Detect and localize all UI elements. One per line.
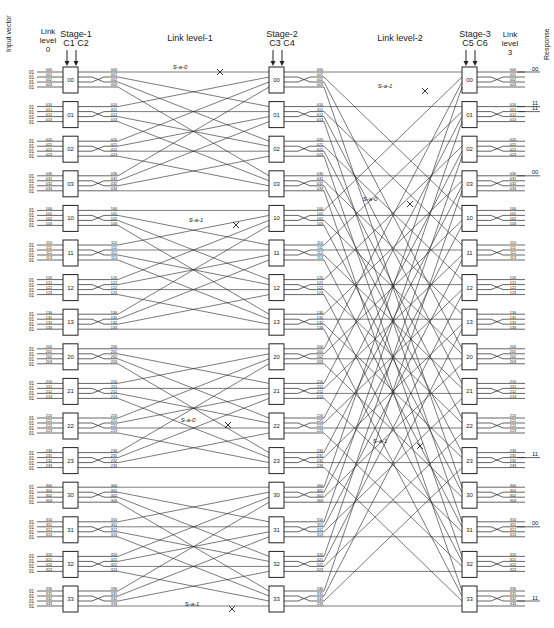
link-label: 010 <box>111 103 117 107</box>
link-label: 113 <box>111 256 117 260</box>
switch-3-22: 22220221222223 <box>462 413 517 439</box>
link-label: 123 <box>510 291 516 295</box>
link-label: 202 <box>317 355 323 359</box>
link-label: 213 <box>510 395 516 399</box>
link-label: 002 <box>317 78 323 82</box>
link-label: 233 <box>510 464 516 468</box>
response-value-4: 11 <box>532 451 539 457</box>
link-label: 300 <box>510 484 516 488</box>
switch-label: 02 <box>273 146 280 152</box>
switch-label: 03 <box>273 181 280 187</box>
link-label: 332 <box>510 597 516 601</box>
link-label: 220 <box>111 414 117 418</box>
switch-2-02: 02020021022023 <box>269 136 324 162</box>
stage-3-header: Stage-3 C5 C6 <box>452 30 498 48</box>
switch-3-20: 20200201202203 <box>462 344 517 370</box>
link-label: 000 <box>111 68 117 72</box>
link-level-1-header: Link level-1 <box>150 34 230 43</box>
link-label: 223 <box>510 429 516 433</box>
link-0-label: 120 <box>46 276 52 280</box>
switch-label: 12 <box>273 285 280 291</box>
switch-label: 23 <box>67 458 74 464</box>
link-0-label: 203 <box>46 360 52 364</box>
link-label: 002 <box>510 78 516 82</box>
switch-2-22: 22220221222223 <box>269 413 324 439</box>
link-label: 300 <box>111 484 117 488</box>
switch-label: 23 <box>273 458 280 464</box>
link-label: 012 <box>510 113 516 117</box>
link-label: 022 <box>111 148 117 152</box>
link-label: 130 <box>510 311 516 315</box>
link-label: 012 <box>111 113 117 117</box>
switch-label: 31 <box>67 527 74 533</box>
link-0-label: 232 <box>46 459 52 463</box>
input-bit: 01 <box>29 431 35 436</box>
link-label: 023 <box>111 153 117 157</box>
link-label: 203 <box>317 360 323 364</box>
switch-2-13: 13130131132133 <box>269 309 324 335</box>
switch-1-01: 0101010010010110110101201201013013 <box>29 102 118 128</box>
input-bit: 01 <box>29 604 35 609</box>
link-label: 020 <box>317 138 323 142</box>
link-label: 123 <box>317 291 323 295</box>
fault-cross-icon <box>229 606 235 612</box>
stage-1-header: Stage-1 C1 C2 <box>53 30 99 48</box>
link-label: 232 <box>317 459 323 463</box>
link-0-label: 021 <box>46 143 52 147</box>
link-label: 112 <box>510 251 516 255</box>
link-0-label: 333 <box>46 602 52 606</box>
switch-3-00: 00000001002003 <box>462 67 517 93</box>
link-0-label: 010 <box>46 103 52 107</box>
link-label: 310 <box>317 518 323 522</box>
switch-1-30: 3001300300013013010130230201303303 <box>29 482 118 508</box>
link-label: 202 <box>510 355 516 359</box>
link-label: 302 <box>510 494 516 498</box>
link-label: 213 <box>317 395 323 399</box>
link-0-label: 133 <box>46 326 52 330</box>
link-label: 213 <box>111 395 117 399</box>
link-0-label: 331 <box>46 592 52 596</box>
link-label: 320 <box>510 553 516 557</box>
link-label: 203 <box>111 360 117 364</box>
link-0-label: 200 <box>46 345 52 349</box>
response-value-0: 00 <box>532 66 539 72</box>
link-0-label: 330 <box>46 587 52 591</box>
link-label: 033 <box>111 187 117 191</box>
link-label: 132 <box>317 321 323 325</box>
link-0-label: 323 <box>46 568 52 572</box>
link-0-label: 032 <box>46 182 52 186</box>
link-label: 330 <box>510 587 516 591</box>
input-bit: 01 <box>29 85 35 90</box>
link-0-label: 332 <box>46 597 52 601</box>
link-label: 210 <box>111 380 117 384</box>
link-label: 000 <box>510 68 516 72</box>
link-label: 130 <box>111 311 117 315</box>
fault-cross-icon <box>233 222 239 228</box>
link-label: 110 <box>111 241 117 245</box>
input-bit: 01 <box>29 535 35 540</box>
link-label: 222 <box>317 424 323 428</box>
link-label: 113 <box>510 256 516 260</box>
link-label: 223 <box>317 429 323 433</box>
fault-label: S-a-0 <box>181 417 196 423</box>
switch-2-01: 01010011012013 <box>269 102 324 128</box>
link-label: 230 <box>510 449 516 453</box>
link-0-label: 212 <box>46 390 52 394</box>
input-bit: 01 <box>29 396 35 401</box>
link-label: 133 <box>317 326 323 330</box>
link-0-label: 202 <box>46 355 52 359</box>
link-label: 002 <box>111 78 117 82</box>
link-0-label: 301 <box>46 489 52 493</box>
link-0-label: 312 <box>46 528 52 532</box>
input-vector-label: Input vector <box>5 15 12 52</box>
input-bit: 01 <box>29 154 35 159</box>
link-label: 122 <box>317 286 323 290</box>
link-label: 113 <box>317 256 323 260</box>
link-0-label: 210 <box>46 380 52 384</box>
link-label: 200 <box>111 345 117 349</box>
stage-2-controls: C3 C4 <box>259 39 305 48</box>
link-label: 220 <box>317 414 323 418</box>
switch-label: 13 <box>466 319 473 325</box>
switch-label: 11 <box>273 250 280 256</box>
link-label: 303 <box>317 499 323 503</box>
